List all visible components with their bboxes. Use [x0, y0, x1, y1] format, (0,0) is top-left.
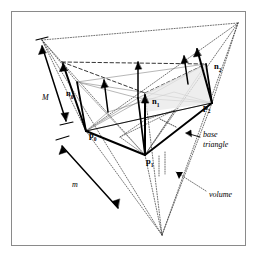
p1-dotted-verticals	[159, 152, 165, 176]
label-m: m	[72, 180, 78, 189]
label-base-triangle-line2: triangle	[203, 140, 228, 150]
label-p2: p2	[203, 102, 210, 114]
label-p1: p1	[146, 156, 153, 168]
label-n2: n2	[214, 61, 221, 73]
label-p0: p0	[89, 130, 96, 142]
measure-arrow-M	[36, 37, 73, 125]
measure-arrow-m	[56, 136, 120, 208]
label-base-triangle-line1: base	[203, 130, 228, 140]
label-volume: volume	[209, 190, 232, 199]
label-M: M	[42, 93, 49, 102]
label-base-triangle: base triangle	[203, 130, 228, 149]
dotted-top-apex-lines	[42, 23, 238, 235]
label-n1: n1	[152, 96, 159, 108]
label-n0: n0	[66, 88, 73, 100]
figure-canvas: n0 n1 n2 p0 p1 p2 M m base triangle volu…	[0, 0, 259, 259]
